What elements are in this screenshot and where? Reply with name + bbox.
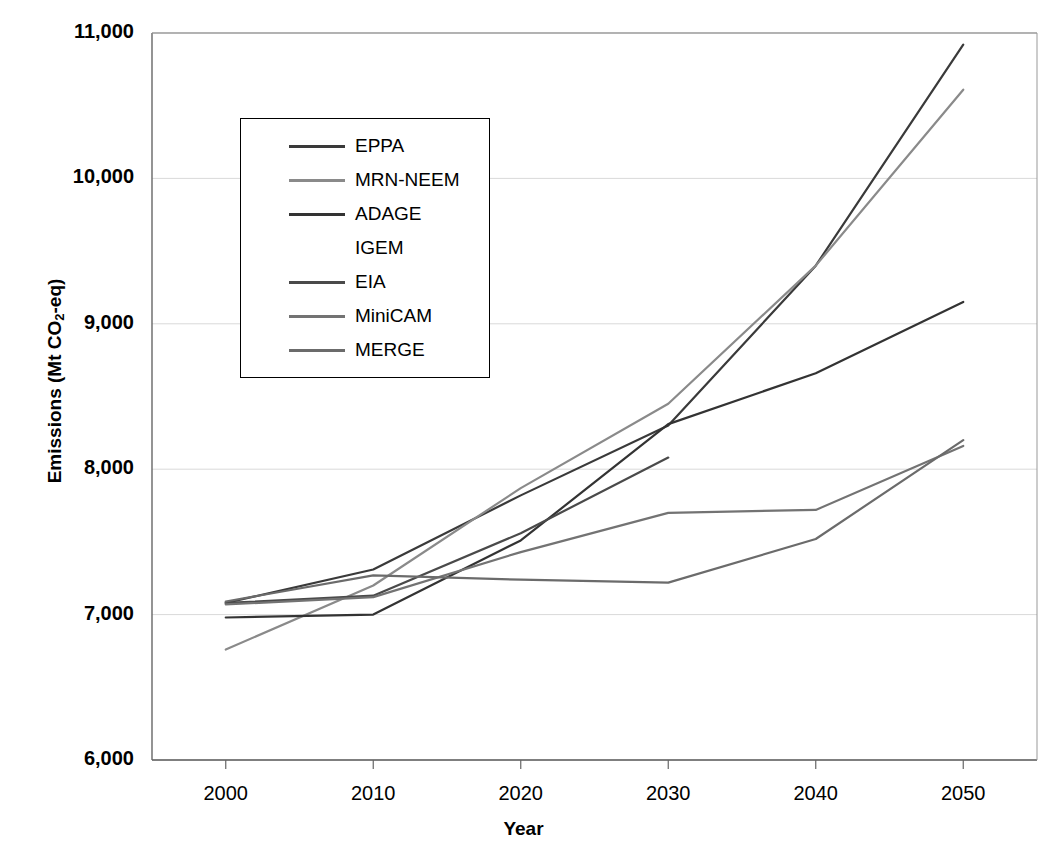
- x-tick-label: 2010: [313, 782, 433, 805]
- legend-swatch-line-icon: [289, 145, 345, 148]
- legend-swatch-line-icon: [289, 213, 345, 216]
- legend-label: ADAGE: [355, 203, 422, 225]
- legend-swatch-line-icon: [289, 247, 345, 250]
- x-tick-label: 2020: [461, 782, 581, 805]
- legend-item-eia[interactable]: EIA: [241, 265, 491, 299]
- chart-legend: EPPAMRN-NEEMADAGEIGEMEIAMiniCAMMERGE: [240, 118, 490, 378]
- legend-label: EPPA: [355, 135, 404, 157]
- x-tick-marks: [226, 760, 964, 769]
- x-tick-label: 2000: [166, 782, 286, 805]
- legend-item-eppa[interactable]: EPPA: [241, 129, 491, 163]
- y-tick-label: 9,000: [0, 311, 134, 334]
- legend-label: MRN-NEEM: [355, 169, 460, 191]
- legend-label: MiniCAM: [355, 305, 432, 327]
- x-tick-label: 2050: [903, 782, 1023, 805]
- legend-swatch-line-icon: [289, 179, 345, 182]
- legend-swatch-line-icon: [289, 349, 345, 352]
- x-tick-label: 2040: [756, 782, 876, 805]
- legend-item-igem[interactable]: IGEM: [241, 231, 491, 265]
- y-tick-label: 8,000: [0, 456, 134, 479]
- legend-item-adage[interactable]: ADAGE: [241, 197, 491, 231]
- legend-swatch-line-icon: [289, 315, 345, 318]
- legend-label: IGEM: [355, 237, 404, 259]
- legend-item-minicam[interactable]: MiniCAM: [241, 299, 491, 333]
- legend-item-mrn-neem[interactable]: MRN-NEEM: [241, 163, 491, 197]
- y-tick-label: 11,000: [0, 20, 134, 43]
- legend-item-merge[interactable]: MERGE: [241, 333, 491, 367]
- legend-swatch-line-icon: [289, 281, 345, 284]
- y-tick-label: 7,000: [0, 602, 134, 625]
- y-axis-label: Emissions (Mt CO2-eq): [44, 231, 66, 531]
- x-axis-label: Year: [0, 818, 1047, 840]
- x-tick-label: 2030: [608, 782, 728, 805]
- emissions-line-chart: Emissions (Mt CO2-eq) Year 11,00010,0009…: [0, 0, 1047, 853]
- chart-plot-area: [0, 0, 1047, 853]
- legend-label: EIA: [355, 271, 386, 293]
- y-tick-label: 6,000: [0, 747, 134, 770]
- legend-label: MERGE: [355, 339, 425, 361]
- y-tick-label: 10,000: [0, 165, 134, 188]
